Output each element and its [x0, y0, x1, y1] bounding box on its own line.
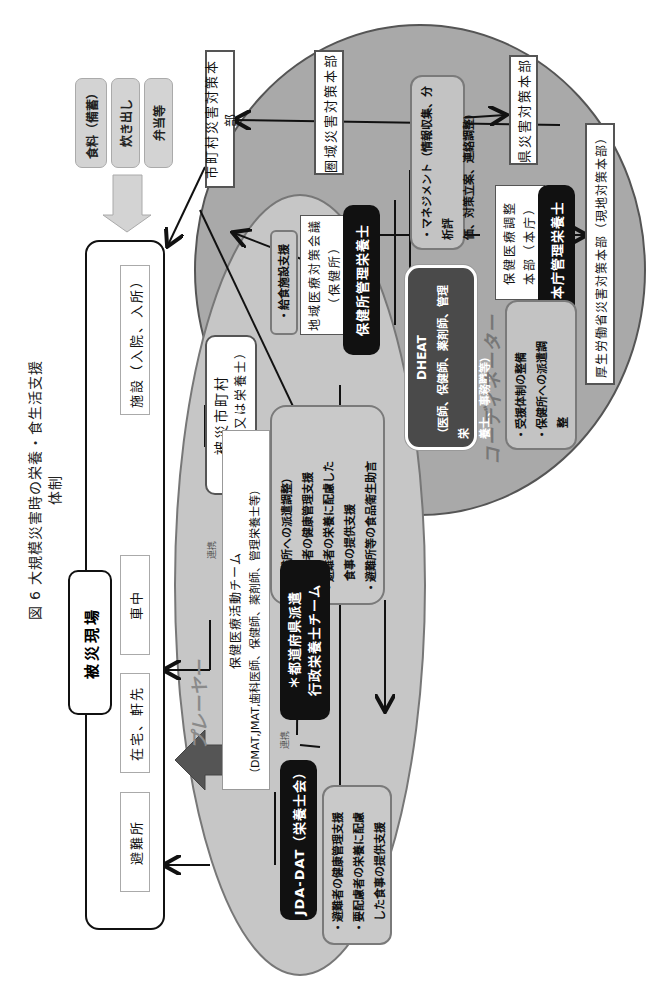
- regional-council-line2: （保健所）: [325, 240, 345, 310]
- support-line2: ・保健所への派遣調: [532, 310, 553, 440]
- disaster-site-label: 被災現場: [68, 570, 112, 715]
- support-line3: 整: [553, 310, 574, 440]
- dheat-line1: （医師、保健師、薬剤師、管理栄: [433, 276, 475, 439]
- location-home: 在宅、軒先: [120, 673, 150, 773]
- figure-title: 図 6 大規模災害時の栄養・食生活支援体制: [32, 355, 56, 625]
- coordinator-label: コーディネーター: [478, 275, 504, 465]
- pref-team-line2: 行政栄養士チーム: [305, 584, 325, 696]
- pref-dietitian: 本庁管理栄養士: [538, 185, 575, 315]
- jda-dat: JDA-DAT（栄養士会）: [280, 760, 317, 920]
- pref-coord-line2: 本部（本庁）: [520, 201, 540, 285]
- management-line2: 価、対策立案、連絡調整）: [459, 85, 480, 240]
- food-stockpile: 食料（備蓄）: [75, 78, 107, 168]
- food-boxed-meals: 弁当等: [144, 78, 173, 168]
- dheat-title: DHEAT: [412, 276, 433, 439]
- jda-activity-box: ・避難者の健康管理支援 ・要配慮者の栄養に配慮 した食事の提供支援: [322, 785, 392, 945]
- pref-team-line1: ＊都道府県派遣: [285, 591, 305, 689]
- medical-team-line2: （DMAT,JMAT,歯科医師、保健師、薬剤師、管理栄養士等）: [246, 441, 266, 779]
- dispatch-line4: 食事の提供支援: [340, 417, 361, 593]
- management-line1: ・マネジメント（情報収集、分析評: [417, 85, 459, 240]
- medical-team-box: 保健医療活動チーム （DMAT,JMAT,歯科医師、保健師、薬剤師、管理栄養士等…: [222, 430, 270, 790]
- location-facility: 施設（入院、入所）: [120, 265, 150, 415]
- food-supply-arrow: [103, 175, 151, 232]
- health-center-dietitian: 保健所管理栄養士: [343, 205, 380, 355]
- dheat-box: DHEAT （医師、保健師、薬剤師、管理栄 養士、事務職等）: [405, 265, 477, 450]
- support-line1: ・受援体制の整備: [511, 310, 532, 440]
- municipal-hq: 市町村災害対策本部: [205, 50, 235, 188]
- diagram-stage: 図 6 大規模災害時の栄養・食生活支援体制 被災現場 避難所 在宅、軒先 車中 …: [0, 0, 651, 1005]
- jda-line3: した食事の提供支援: [370, 797, 391, 933]
- location-shelter: 避難所: [120, 792, 150, 892]
- location-vehicle: 車中: [120, 555, 150, 655]
- cooperation-label-1: 連携: [203, 535, 219, 565]
- regional-council-line1: 地域医療対策会議: [305, 219, 325, 331]
- support-system-box: ・受援体制の整備 ・保健所への派遣調 整: [505, 300, 577, 450]
- medical-team-line1: 保健医療活動チーム: [226, 441, 246, 779]
- food-soup-kitchen: 炊き出し: [111, 78, 140, 168]
- regional-hq: 圏域災害対策本部: [314, 50, 344, 175]
- cooperation-label-2: 連携: [277, 725, 291, 755]
- player-label: プレーヤー: [185, 630, 213, 750]
- prefectural-hq: 県災害対策本部: [509, 55, 538, 165]
- mhlw-hq: 厚生労働省災害対策本部（現地対策本部）: [585, 123, 615, 385]
- pref-coord-line1: 保健医療調整: [500, 201, 520, 285]
- jda-line1: ・避難者の健康管理支援: [328, 797, 349, 933]
- pref-dietitian-team: ＊都道府県派遣 行政栄養士チーム: [280, 560, 330, 720]
- jda-line2: ・要配慮者の栄養に配慮: [349, 797, 370, 933]
- facility-support: ・給食施設支援: [270, 230, 298, 335]
- dispatch-line5: ・避難所等の食品衛生助言: [361, 417, 382, 593]
- management-box: ・マネジメント（情報収集、分析評 価、対策立案、連絡調整）: [410, 75, 465, 250]
